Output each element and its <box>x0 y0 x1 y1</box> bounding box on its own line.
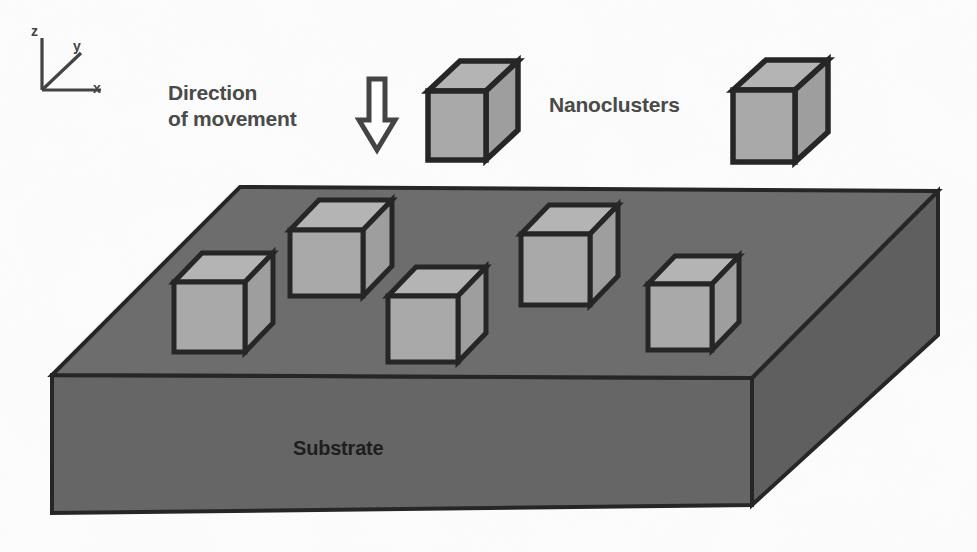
schematic-scene <box>0 0 977 552</box>
substrate-label: Substrate <box>293 436 383 461</box>
substrate-front-face <box>52 375 752 513</box>
axis-y-line <box>42 53 81 90</box>
nanocluster-4 <box>521 205 618 305</box>
floating-nanocluster-2 <box>733 60 828 162</box>
figure-canvas: Direction of movement Nanoclusters Subst… <box>0 0 977 552</box>
down-arrow-icon <box>359 79 395 150</box>
nanocluster-5 <box>648 256 739 350</box>
nanocluster-2 <box>290 200 392 296</box>
floating-nanocluster-2-front <box>733 90 795 162</box>
axis-label-z: z <box>31 23 38 39</box>
nanocluster-1-front <box>174 282 245 352</box>
nanoclusters-label: Nanoclusters <box>549 92 680 118</box>
axis-label-y: y <box>73 38 81 54</box>
axis-label-x: x <box>93 80 101 96</box>
nanocluster-3 <box>388 267 486 362</box>
nanocluster-2-front <box>290 230 363 296</box>
floating-nanocluster-1-front <box>428 91 486 160</box>
direction-of-movement-label: Direction of movement <box>168 80 297 133</box>
nanocluster-3-front <box>388 296 458 362</box>
direction-arrow <box>359 79 395 150</box>
floating-nanocluster-1 <box>428 61 518 160</box>
nanocluster-1 <box>174 253 273 352</box>
nanocluster-5-front <box>648 284 712 350</box>
nanocluster-4-front <box>521 234 590 305</box>
